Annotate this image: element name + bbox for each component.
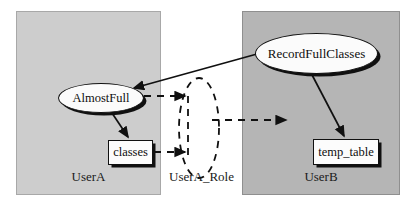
node-recordfullclasses-label: RecordFullClasses (268, 46, 366, 62)
node-temp-table[interactable]: temp_table (313, 139, 379, 165)
panel-usera-label: UserA (16, 169, 161, 185)
edge-recordfullclasses-to-temptable (310, 71, 344, 136)
node-classes[interactable]: classes (108, 140, 153, 165)
node-almostfull[interactable]: AlmostFull (58, 83, 144, 113)
node-temp-table-label: temp_table (318, 145, 374, 160)
edge-almostfull-to-classes (110, 110, 128, 137)
panel-userb-label: UserB (242, 169, 400, 185)
edge-recordfullclasses-to-almostfull (134, 54, 257, 88)
role-ellipse-usera-role (179, 78, 219, 178)
node-classes-label: classes (113, 145, 148, 160)
diagram-canvas: AlmostFull RecordFullClasses classes tem… (0, 0, 417, 213)
role-label-usera-role: UserA_Role (161, 169, 242, 185)
node-recordfullclasses[interactable]: RecordFullClasses (255, 33, 378, 74)
node-almostfull-label: AlmostFull (73, 91, 130, 106)
